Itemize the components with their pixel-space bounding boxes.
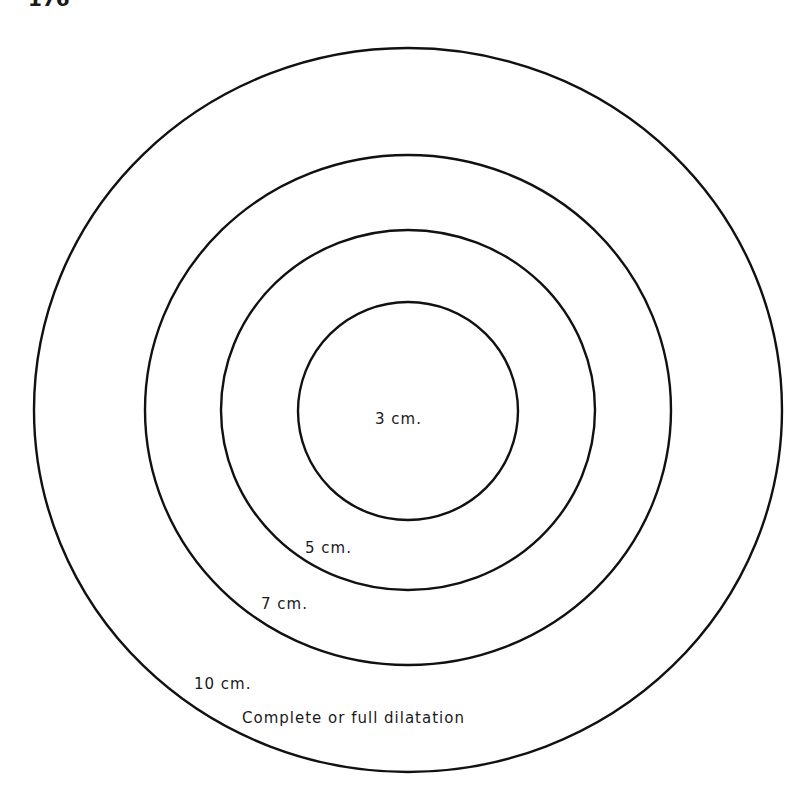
dilatation-diagram: 176 3 cm. 5 cm. 7 cm. 10 cm. Complete or… (0, 0, 809, 791)
label-5cm: 5 cm. (305, 539, 352, 557)
page-number: 176 (28, 0, 70, 11)
label-10cm: 10 cm. (194, 675, 251, 693)
caption-full-dilatation: Complete or full dilatation (242, 709, 465, 727)
label-7cm: 7 cm. (261, 595, 308, 613)
label-3cm: 3 cm. (375, 410, 422, 428)
